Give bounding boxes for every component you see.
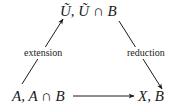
edge-label-reduction: reduction [126, 47, 166, 59]
node-bottom-right: X, B [138, 89, 164, 104]
node-bottom-left: A, A ∩ B [12, 89, 65, 104]
node-top: Ũ, Ũ ∩ B [60, 4, 117, 19]
edge-label-extension: extension [23, 47, 63, 59]
